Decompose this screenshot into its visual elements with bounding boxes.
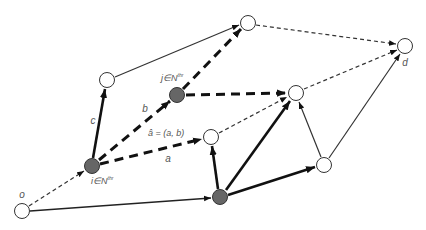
edge-a-mid: [219, 97, 287, 133]
edge-j-mid: [186, 93, 286, 95]
node-c-target: [100, 73, 115, 88]
network-diagram: o d c b a â = (a, b) i∈Nthr j∈Nthr: [0, 0, 426, 230]
label-b: b: [142, 103, 148, 114]
edge-i-a: [100, 139, 202, 164]
label-i-main: i∈N: [91, 176, 108, 186]
edge-bottom-a: [212, 146, 218, 189]
edge-j-top: [183, 29, 241, 89]
edge-o-i: [29, 171, 84, 206]
node-j: [170, 88, 185, 103]
labels: o d c b a â = (a, b) i∈Nthr j∈Nthr: [19, 57, 408, 200]
node-mid: [289, 86, 304, 101]
nodes: [15, 16, 413, 219]
label-a: a: [165, 153, 171, 164]
label-i: i∈Nthr: [91, 175, 114, 186]
label-o: o: [19, 189, 25, 200]
label-i-sup: thr: [108, 175, 114, 181]
edge-top-d: [256, 25, 396, 44]
label-j-sup: thr: [178, 72, 184, 78]
label-c: c: [91, 115, 96, 126]
edge-o-bottom: [30, 198, 211, 211]
node-top: [241, 16, 256, 31]
label-j: j∈Nthr: [160, 72, 184, 83]
node-a-target: [204, 130, 219, 145]
node-bottom-right: [317, 158, 332, 173]
edge-br-d: [329, 54, 400, 158]
label-d: d: [402, 57, 408, 68]
node-i: [85, 159, 100, 174]
node-bottom: [213, 190, 228, 205]
label-j-main: j∈N: [160, 73, 178, 83]
edge-bottom-mid: [226, 101, 290, 190]
edges: [29, 25, 400, 211]
label-a-hat: â = (a, b): [148, 128, 184, 138]
node-o: [15, 204, 30, 219]
node-d: [398, 39, 413, 54]
edge-br-mid: [299, 102, 321, 157]
edge-mid-d: [304, 50, 397, 89]
